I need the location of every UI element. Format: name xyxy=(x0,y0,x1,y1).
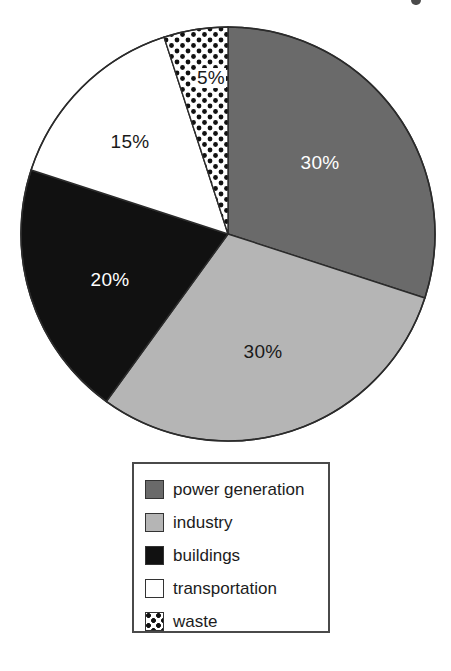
legend-label: transportation xyxy=(173,580,277,597)
light-gray-swatch-icon xyxy=(145,513,164,532)
legend-item-transportation: transportation xyxy=(145,572,328,605)
legend-item-power-generation: power generation xyxy=(145,473,328,506)
dotted-swatch-icon xyxy=(145,612,164,631)
black-swatch-icon xyxy=(145,546,164,565)
pie-chart-svg xyxy=(20,26,436,442)
pie-chart: 30% 30% 20% 15% 5% xyxy=(20,26,436,442)
legend-label: industry xyxy=(173,514,233,531)
legend-label: power generation xyxy=(173,481,304,498)
legend-label: waste xyxy=(173,613,217,630)
dark-gray-swatch-icon xyxy=(145,480,164,499)
white-swatch-icon xyxy=(145,579,164,598)
legend-item-buildings: buildings xyxy=(145,539,328,572)
legend-item-industry: industry xyxy=(145,506,328,539)
chart-legend: power generation industry buildings tran… xyxy=(132,462,330,633)
pie-chart-figure: 30% 30% 20% 15% 5% power generation indu… xyxy=(0,0,451,671)
legend-item-waste: waste xyxy=(145,605,328,638)
scan-artifact-mark xyxy=(411,0,421,5)
legend-label: buildings xyxy=(173,547,240,564)
